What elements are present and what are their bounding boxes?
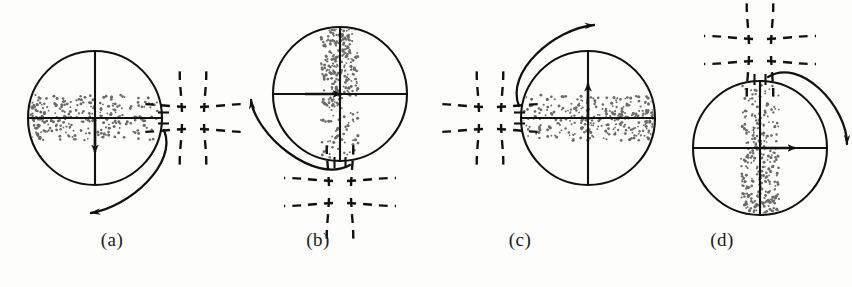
band-dot [557,122,560,125]
band-dot [328,98,330,100]
band-dot [741,192,744,195]
band-dot [34,94,36,96]
sep-branch [200,104,247,107]
band-dot [121,114,123,116]
band-dot [112,122,114,124]
band-dot [769,150,771,152]
band-dot [24,111,27,114]
band-dot [757,127,759,129]
band-dot [546,109,548,111]
band-dot [324,67,327,70]
band-dot [763,205,766,208]
band-dot [647,137,649,139]
panel-b [251,20,407,244]
band-dot [107,131,110,134]
band-dot [96,131,99,134]
band-dot [353,66,356,69]
band-dot [99,114,101,116]
band-dot [583,131,585,133]
band-dot [119,127,121,129]
band-dot [582,107,584,109]
band-dot [80,98,83,101]
band-dot [525,125,527,127]
band-dot [351,58,353,60]
band-dot [559,132,561,134]
sep-branch [477,66,479,112]
band-dot [110,96,113,99]
band-dot [129,122,132,125]
band-dot [332,55,334,57]
band-dot [37,99,39,101]
band-dot [113,125,116,128]
band-dot [356,117,359,120]
band-dot [71,136,73,138]
band-dot [65,132,67,134]
band-dot [142,119,145,122]
band-dot [747,167,749,169]
sep-branch [139,129,186,132]
band-dot [611,111,614,114]
band-dot [593,99,596,102]
band-dot [614,110,616,112]
band-dot [320,62,322,64]
band-dot [345,56,348,59]
band-dot [600,125,602,127]
band-dot [752,152,754,154]
band-dot [328,29,330,31]
band-dot [772,111,774,113]
band-dot [137,132,140,135]
band-dot [633,134,635,136]
band-dot [645,125,647,127]
band-dot [751,155,753,157]
band-dot [565,110,567,112]
band-dot [99,111,101,113]
band-dot [580,127,583,130]
band-dot [612,105,614,107]
band-dot [775,133,777,135]
band-dot [647,102,650,105]
band-dot [100,129,102,131]
band-dot [347,58,349,60]
band-dot [768,88,770,90]
band-dot [569,112,571,114]
band-dot [605,115,607,117]
band-dot [604,130,607,133]
band-dot [76,104,78,106]
band-dot [755,209,757,211]
sep-branch [327,140,329,186]
band-dot [344,126,347,129]
band-dot [564,127,567,130]
band-dot [45,97,48,100]
band-dot [747,141,749,143]
band-dot [595,105,598,108]
band-dot [322,44,325,47]
sep-branch [284,178,333,181]
band-dot [346,53,349,56]
band-dot [329,140,331,142]
band-dot [645,121,648,124]
band-dot [576,98,578,100]
band-dot [39,102,41,104]
band-dot [766,141,768,143]
band-dot [769,201,772,204]
band-dot [610,102,613,105]
band-dot [59,128,62,131]
band-dot [78,112,80,114]
band-dot [617,115,619,117]
panel-caption-a: (a) [82,229,142,251]
band-dot [767,116,769,118]
band-dot [344,70,346,72]
band-dot [754,115,756,117]
band-dot [80,103,83,106]
band-dot [331,88,333,90]
band-dot [740,196,742,198]
band-dot [756,135,759,138]
band-dot [102,103,104,105]
band-dot [768,121,770,123]
band-dot [99,102,102,105]
band-dot [80,129,82,131]
band-dot [562,95,565,98]
band-dot [346,20,348,22]
band-dot [334,23,336,25]
band-dot [332,82,334,84]
